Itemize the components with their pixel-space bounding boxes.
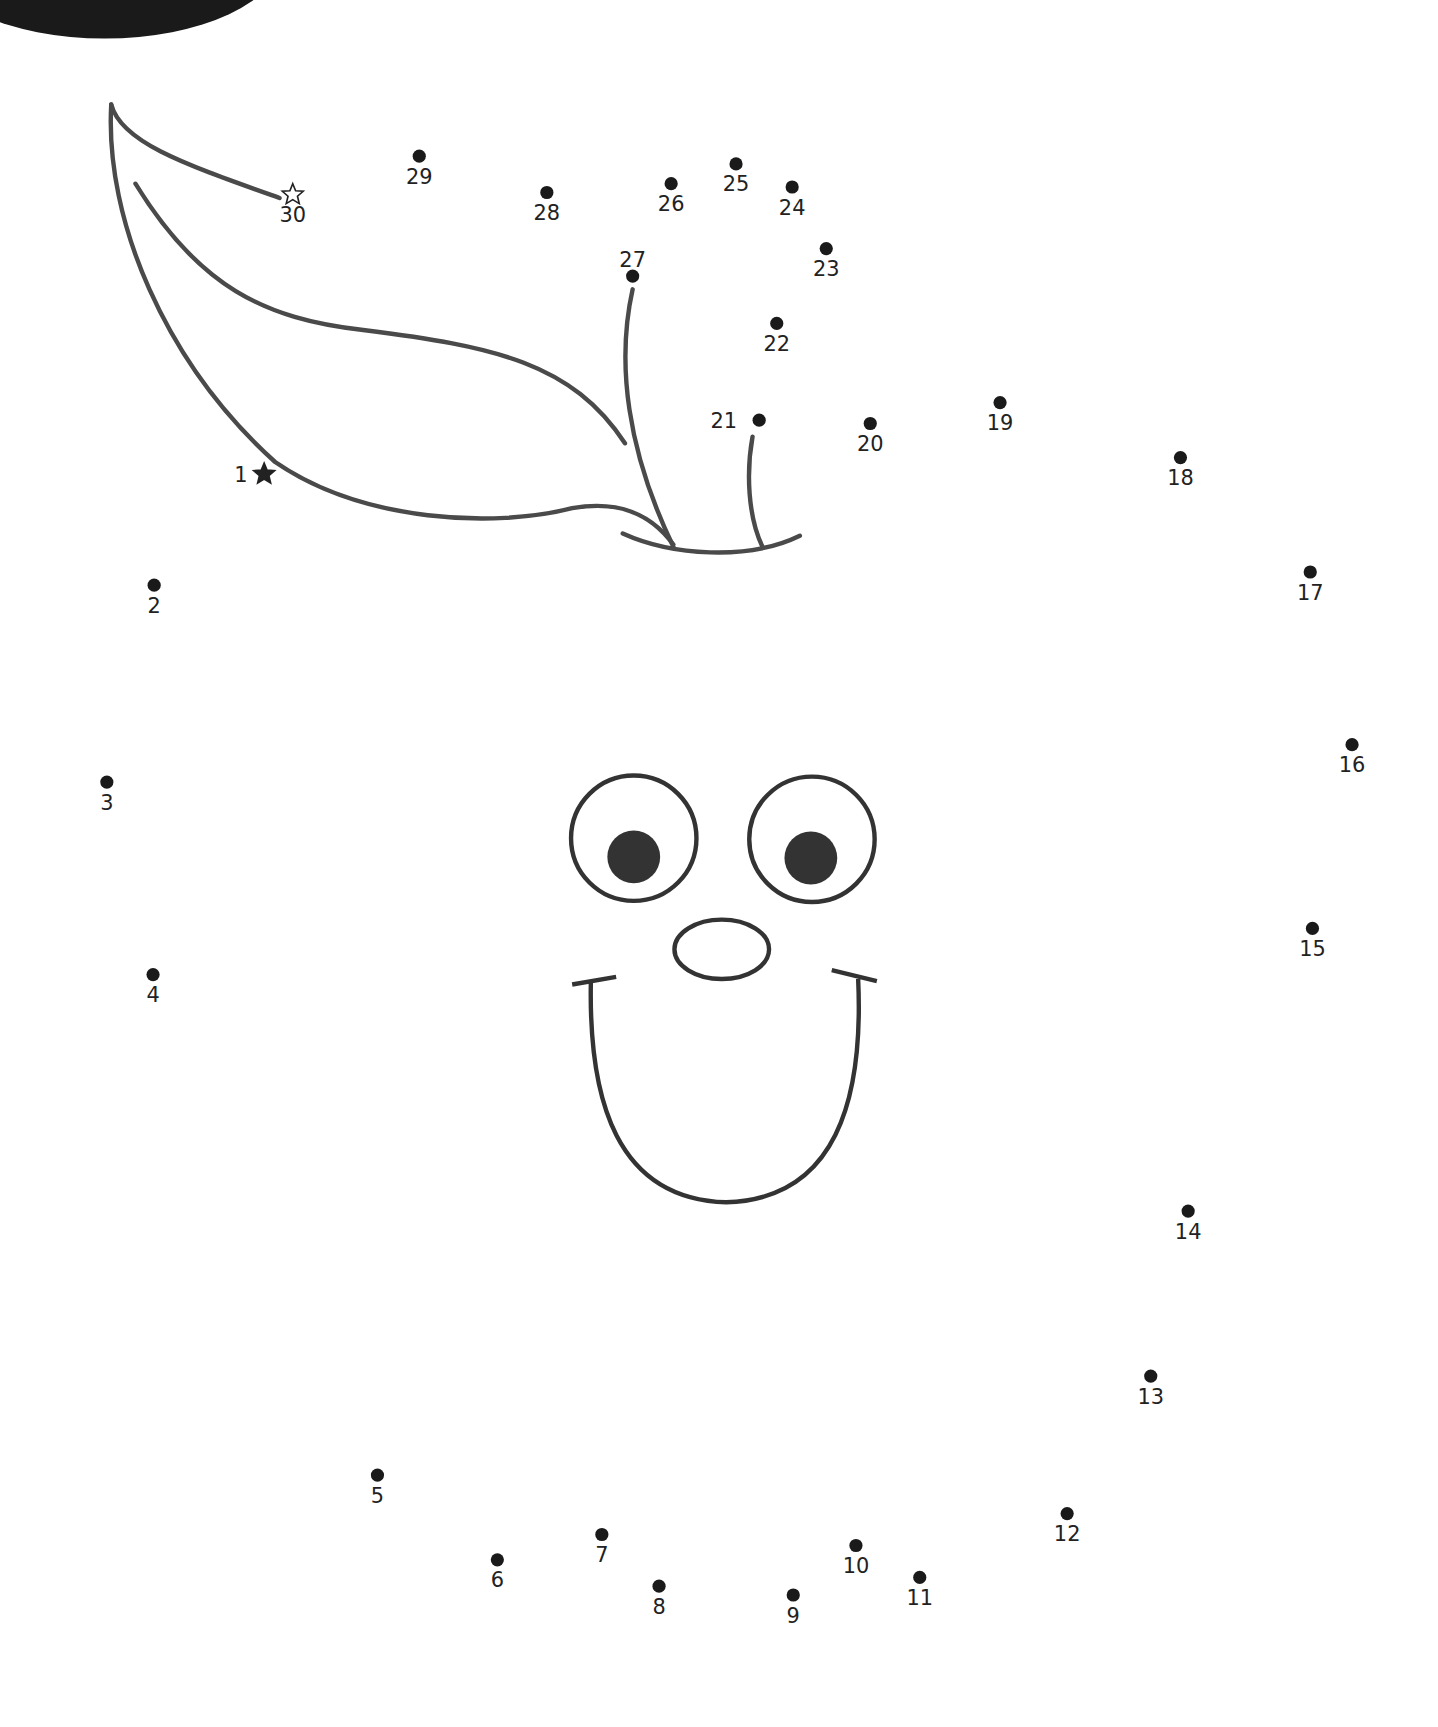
dot-marker xyxy=(729,157,742,170)
dot-label: 6 xyxy=(491,1568,504,1592)
end-star-icon xyxy=(282,184,303,204)
dot-marker xyxy=(652,1580,665,1593)
dot-5: 5 xyxy=(371,1469,384,1508)
dot-label: 30 xyxy=(279,203,306,227)
nose xyxy=(674,920,769,979)
dot-label: 23 xyxy=(813,257,840,281)
dot-to-dot-worksheet: 1234567891011121314151617181920212223242… xyxy=(0,0,1438,1727)
dot-4: 4 xyxy=(146,968,159,1007)
dot-marker xyxy=(1182,1205,1195,1218)
dot-label: 14 xyxy=(1175,1220,1202,1244)
left-pupil xyxy=(607,831,660,884)
dot-marker xyxy=(595,1528,608,1541)
dot-label: 27 xyxy=(619,248,646,272)
dot-marker xyxy=(753,414,766,427)
dot-20: 20 xyxy=(857,417,884,456)
dot-13: 13 xyxy=(1137,1370,1164,1409)
dot-marker xyxy=(1061,1507,1074,1520)
dot-18: 18 xyxy=(1167,451,1194,490)
dot-marker xyxy=(1306,922,1319,935)
dot-16: 16 xyxy=(1339,738,1366,777)
dot-label: 17 xyxy=(1297,580,1324,604)
dot-24: 24 xyxy=(779,180,806,219)
dot-label: 25 xyxy=(723,172,750,196)
dot-23: 23 xyxy=(813,242,840,281)
dot-30: 30 xyxy=(279,184,306,228)
dot-label: 11 xyxy=(906,1586,933,1610)
dot-label: 15 xyxy=(1299,937,1326,961)
dot-label: 29 xyxy=(406,165,433,189)
dot-2: 2 xyxy=(148,579,161,618)
dot-label: 4 xyxy=(146,983,159,1007)
dot-15: 15 xyxy=(1299,922,1326,961)
worksheet-drawing: 1234567891011121314151617181920212223242… xyxy=(0,0,1438,1727)
dot-label: 2 xyxy=(148,594,161,618)
dot-marker xyxy=(491,1553,504,1566)
start-star-icon xyxy=(254,463,275,483)
dot-marker xyxy=(770,317,783,330)
leaf-outline xyxy=(111,105,800,553)
dot-marker xyxy=(1304,565,1317,578)
dot-marker xyxy=(864,417,877,430)
dot-27: 27 xyxy=(619,248,646,282)
dot-label: 5 xyxy=(371,1484,384,1508)
dot-1: 1 xyxy=(234,463,274,487)
dot-28: 28 xyxy=(534,186,561,225)
dot-25: 25 xyxy=(723,157,750,196)
dot-label: 12 xyxy=(1054,1522,1081,1546)
dark-blob-corner xyxy=(0,0,281,39)
dot-marker xyxy=(1174,451,1187,464)
dot-7: 7 xyxy=(595,1528,608,1567)
dot-6: 6 xyxy=(491,1553,504,1592)
dot-label: 1 xyxy=(234,463,247,487)
dot-label: 26 xyxy=(658,192,685,216)
dot-3: 3 xyxy=(100,776,113,815)
dot-label: 21 xyxy=(711,409,738,433)
dot-marker xyxy=(993,396,1006,409)
dot-12: 12 xyxy=(1054,1507,1081,1546)
dot-marker xyxy=(913,1571,926,1584)
dot-marker xyxy=(665,177,678,190)
dot-label: 24 xyxy=(779,195,806,219)
dot-marker xyxy=(1144,1370,1157,1383)
dot-label: 9 xyxy=(787,1603,800,1627)
mouth xyxy=(572,970,877,1202)
dot-label: 18 xyxy=(1167,466,1194,490)
dot-marker xyxy=(786,180,799,193)
dot-9: 9 xyxy=(787,1588,800,1627)
right-pupil xyxy=(784,832,837,885)
dot-29: 29 xyxy=(406,150,433,189)
dot-17: 17 xyxy=(1297,565,1324,604)
dot-label: 22 xyxy=(763,332,790,356)
dot-10: 10 xyxy=(843,1539,870,1578)
dot-label: 8 xyxy=(652,1595,665,1619)
dot-11: 11 xyxy=(906,1571,933,1610)
dot-marker xyxy=(820,242,833,255)
dot-21: 21 xyxy=(711,409,766,433)
dot-marker xyxy=(371,1469,384,1482)
dot-label: 10 xyxy=(843,1554,870,1578)
dot-marker xyxy=(1345,738,1358,751)
dot-marker xyxy=(540,186,553,199)
dot-marker xyxy=(148,579,161,592)
dot-19: 19 xyxy=(987,396,1014,435)
dot-marker xyxy=(100,776,113,789)
dot-22: 22 xyxy=(763,317,790,356)
dot-label: 7 xyxy=(595,1543,608,1567)
dot-label: 19 xyxy=(987,411,1014,435)
dot-26: 26 xyxy=(658,177,685,216)
dot-marker xyxy=(849,1539,862,1552)
dot-8: 8 xyxy=(652,1580,665,1619)
dot-label: 28 xyxy=(534,201,561,225)
dot-label: 20 xyxy=(857,432,884,456)
dot-label: 3 xyxy=(100,791,113,815)
dot-label: 16 xyxy=(1339,753,1366,777)
dot-marker xyxy=(413,150,426,163)
dot-14: 14 xyxy=(1175,1205,1202,1244)
dot-label: 13 xyxy=(1137,1385,1164,1409)
dot-marker xyxy=(787,1588,800,1601)
dot-marker xyxy=(146,968,159,981)
